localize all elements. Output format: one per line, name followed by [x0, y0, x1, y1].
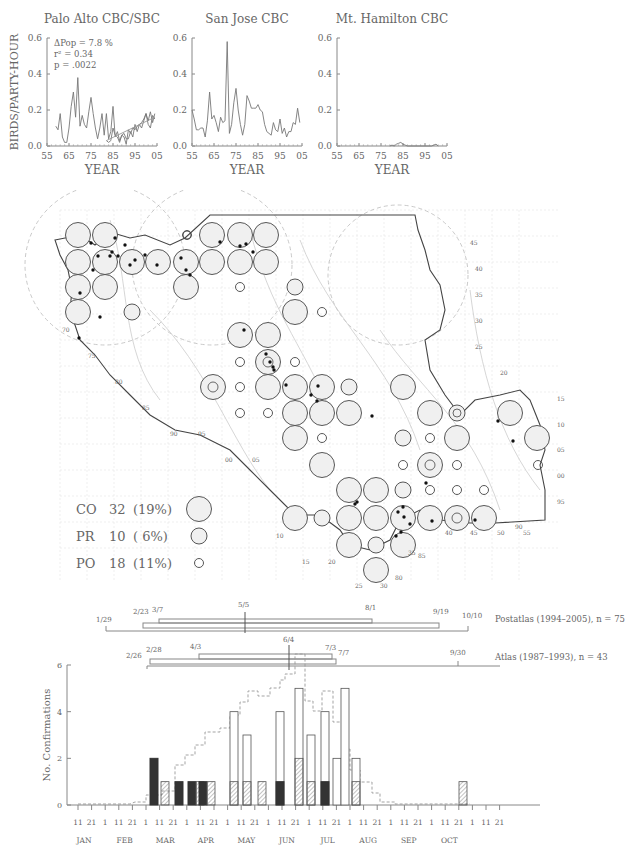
- day-tick-label: 11: [73, 818, 83, 827]
- atlas-block-circle: [256, 375, 281, 400]
- atlas-block-circle: [445, 506, 470, 531]
- day-tick-label: 21: [128, 818, 138, 827]
- legend-code: PR: [76, 529, 96, 544]
- bar-hatched: [207, 782, 215, 805]
- atlas-block-circle: [337, 506, 362, 531]
- y-tick-label: 0.0: [173, 141, 188, 151]
- record-dot: [424, 481, 427, 484]
- day-tick-label: 1: [225, 818, 230, 827]
- y-tick-label: 0: [57, 801, 62, 810]
- x-tick-label: 05: [441, 151, 453, 161]
- atlas-block-circle: [200, 223, 225, 248]
- day-tick-label: 1: [307, 818, 312, 827]
- legend-circle-large: [187, 497, 212, 522]
- line-chart-palo-alto: Palo Alto CBC/SBC0.00.20.40.655657585950…: [0, 0, 180, 180]
- stat-annotation: p = .0022: [54, 60, 96, 70]
- record-dot: [133, 258, 136, 261]
- month-label: MAR: [156, 836, 175, 845]
- range-date: 1/29: [96, 616, 112, 624]
- month-label: OCT: [441, 836, 458, 845]
- x-axis-label: YEAR: [374, 163, 410, 177]
- atlas-block-circle: [236, 358, 245, 367]
- grid-label: 55: [523, 529, 531, 536]
- day-tick-label: 1: [388, 818, 393, 827]
- atlas-block-circle: [236, 283, 245, 292]
- bar-hatched: [230, 782, 238, 805]
- atlas-block-circle: [399, 461, 408, 470]
- record-dot: [89, 241, 92, 244]
- y-tick-label: 0.0: [28, 141, 43, 151]
- series-line-cbc: [390, 142, 438, 146]
- y-tick-label: 0.4: [318, 69, 333, 79]
- day-tick-label: 1: [266, 818, 271, 827]
- range-date: 4/3: [190, 643, 201, 651]
- range-date: 3/7: [152, 606, 163, 614]
- y-axis-label: No. Confirmations: [41, 689, 52, 782]
- atlas-block-circle: [534, 461, 543, 470]
- x-tick-label: 85: [252, 151, 264, 161]
- stat-annotation: r² = 0.34: [54, 49, 93, 59]
- legend-count: 18: [109, 556, 126, 571]
- record-dot: [271, 365, 274, 368]
- atlas-block-circle: [418, 401, 443, 426]
- day-tick-label: 1: [103, 818, 108, 827]
- x-tick-label: 95: [129, 151, 141, 161]
- y-tick-label: 0.6: [318, 33, 333, 43]
- x-tick-label: 95: [274, 151, 286, 161]
- grid-label: 75: [88, 352, 96, 359]
- atlas-block-circle: [264, 409, 273, 418]
- bar-dark: [199, 782, 207, 805]
- atlas-block-circle: [318, 434, 327, 443]
- record-dot: [496, 419, 499, 422]
- grid-label: 35: [408, 549, 416, 556]
- record-dot: [408, 522, 411, 525]
- record-dot: [264, 352, 267, 355]
- grid-label: 95: [557, 498, 565, 505]
- day-tick-label: 11: [155, 818, 165, 827]
- record-dot: [218, 240, 221, 243]
- record-dot: [268, 360, 271, 363]
- x-axis-label: YEAR: [229, 163, 265, 177]
- record-dot: [355, 500, 358, 503]
- bar-hatched: [352, 782, 360, 805]
- bar-open: [341, 688, 349, 805]
- y-tick-label: 4: [57, 708, 62, 717]
- record-dot: [123, 243, 126, 246]
- y-tick-label: 0.4: [173, 69, 188, 79]
- mt-hamilton-chart-svg: Mt. Hamilton CBC0.00.20.40.6556575859505…: [300, 0, 480, 180]
- bar-dark: [150, 758, 158, 805]
- record-dot: [511, 439, 514, 442]
- atlas-block-circle: [124, 304, 140, 320]
- range-circle: [328, 205, 468, 345]
- day-tick-label: 21: [332, 818, 342, 827]
- month-label: MAY: [238, 836, 257, 845]
- grid-label: 45: [470, 529, 478, 536]
- atlas-block-circle: [498, 401, 523, 426]
- grid-label: 05: [252, 456, 260, 463]
- atlas-block-circle: [418, 453, 443, 478]
- postatlas-label: Postatlas (1994–2005), n = 75: [495, 614, 625, 624]
- atlas-block-circle: [174, 275, 199, 300]
- day-tick-label: 21: [413, 818, 423, 827]
- atlas-block-circle: [256, 323, 281, 348]
- grid-label: 85: [418, 552, 426, 559]
- atlas-block-circle: [337, 401, 362, 426]
- atlas-block-circle: [283, 375, 308, 400]
- grid-label: 10: [276, 532, 284, 539]
- legend-count: 10: [109, 529, 126, 544]
- month-label: AUG: [358, 836, 377, 845]
- month-label: SEP: [401, 836, 417, 845]
- record-dot: [78, 291, 81, 294]
- atlas-block-circle: [364, 506, 389, 531]
- bar-hatched: [258, 782, 266, 805]
- atlas-block-circle: [445, 426, 470, 451]
- record-dot: [179, 256, 182, 259]
- grid-label: 90: [170, 430, 178, 437]
- grid-label: 20: [328, 558, 336, 565]
- atlas-block-circle: [254, 250, 279, 275]
- grid-label: 90: [515, 523, 523, 530]
- atlas-block-circle: [287, 279, 303, 295]
- record-dot: [110, 250, 113, 253]
- atlas-block-circle: [480, 486, 489, 495]
- x-tick-label: 85: [107, 151, 119, 161]
